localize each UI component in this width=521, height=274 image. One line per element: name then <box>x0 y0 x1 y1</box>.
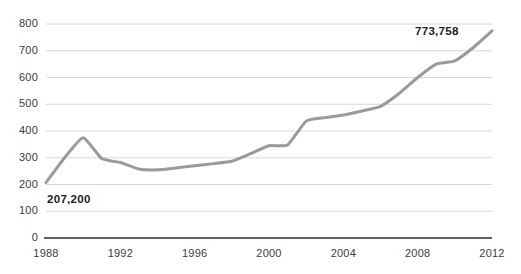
x-tick-label: 1988 <box>24 247 68 259</box>
y-tick-label: 500 <box>8 97 38 109</box>
data-series-line <box>46 31 492 183</box>
x-tick-label: 2008 <box>396 247 440 259</box>
end-value-label: 773,758 <box>415 25 459 37</box>
y-tick-label: 0 <box>8 231 38 243</box>
y-tick-label: 300 <box>8 151 38 163</box>
line-chart: 0100200300400500600700800 19881992199620… <box>0 0 521 274</box>
x-tick-label: 2004 <box>321 247 365 259</box>
start-value-label: 207,200 <box>47 193 91 205</box>
x-tick-label: 1992 <box>98 247 142 259</box>
x-tick-label: 2000 <box>247 247 291 259</box>
series-path <box>46 31 492 183</box>
y-tick-label: 100 <box>8 204 38 216</box>
y-tick-label: 200 <box>8 178 38 190</box>
x-tick-label: 2012 <box>470 247 514 259</box>
x-tick-label: 1996 <box>173 247 217 259</box>
y-tick-label: 800 <box>8 17 38 29</box>
y-tick-label: 700 <box>8 44 38 56</box>
y-tick-label: 400 <box>8 124 38 136</box>
y-tick-label: 600 <box>8 71 38 83</box>
gridlines <box>46 24 492 211</box>
chart-plot-area <box>0 0 521 274</box>
